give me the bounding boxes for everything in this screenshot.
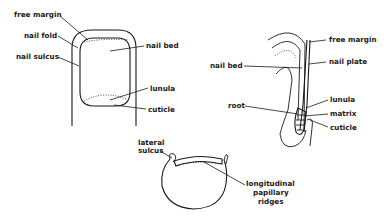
cross-section-panel: lateral sulcus longitudinal papillary ri… [138, 138, 295, 209]
nail-bed-dashed [275, 50, 296, 58]
dorsal-view-panel: free margin nail fold nail sulcus nail b… [14, 10, 179, 126]
label-ridges: ridges [258, 197, 283, 206]
label-cuticle: cuticle [148, 105, 175, 114]
label-longitudinal: longitudinal [246, 179, 295, 188]
label-free-margin-sagittal: free margin [329, 35, 377, 44]
pulp-contour [276, 67, 306, 147]
label-cuticle-sagittal: cuticle [330, 123, 357, 132]
nail-anatomy-diagram: free margin nail fold nail sulcus nail b… [0, 0, 384, 220]
label-papillary: papillary [253, 188, 289, 197]
label-matrix: matrix [330, 109, 357, 118]
cuticle-fold [307, 119, 312, 146]
label-nail-plate: nail plate [329, 57, 367, 66]
label-nail-bed: nail bed [146, 41, 179, 50]
free-margin-edge [84, 39, 128, 42]
label-nail-fold: nail fold [24, 31, 57, 40]
label-sulcus: sulcus [138, 146, 164, 155]
sagittal-section-panel: free margin nail plate nail bed root lun… [210, 33, 377, 147]
label-lunula-sagittal: lunula [330, 95, 355, 104]
label-nail-bed-sagittal: nail bed [210, 61, 243, 70]
cross-section-outline [162, 159, 227, 209]
lunula-arc [84, 95, 126, 101]
label-free-margin: free margin [14, 10, 62, 19]
label-nail-sulcus: nail sulcus [16, 52, 59, 61]
label-lunula: lunula [150, 84, 175, 93]
label-root: root [228, 101, 245, 110]
inner-contour [272, 41, 300, 120]
